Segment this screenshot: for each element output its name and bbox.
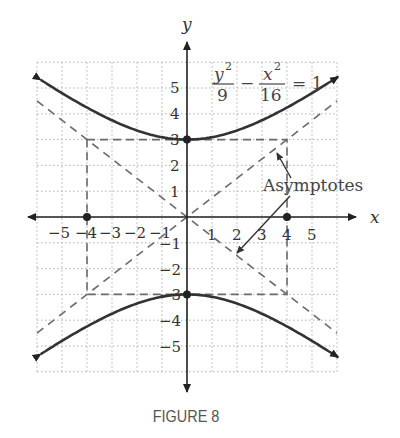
x-tick: 2 [232,226,242,244]
y-tick: −1 [159,235,181,253]
y-tick: −2 [159,261,181,279]
y-tick: 1 [170,183,180,201]
y-tick: 3 [170,131,180,149]
figure-caption: FIGURE 8 [28,407,344,427]
vertex-point-top [183,136,191,144]
x-tick-labels: −5 −4 −3 −2 −1 1 2 3 4 5 [48,224,317,244]
x-tick: −2 [124,224,146,242]
x-tick: −4 [75,224,97,242]
eq-equals-one: = 1 [292,73,322,93]
eq-term1-denominator: 9 [217,85,228,105]
y-axis-label: y [181,14,192,34]
y-tick: −5 [159,338,181,356]
x-tick: 5 [307,226,317,244]
y-tick: −3 [159,286,181,304]
x-axis-label: x [370,207,380,227]
point-4-0 [283,213,291,221]
x-tick: −3 [99,224,121,242]
eq-term1-exponent: 2 [225,60,232,73]
eq-minus: − [240,73,254,93]
eq-term2-denominator: 16 [260,85,282,105]
hyperbola-equation: y 2 9 − x 2 16 = 1 [212,60,322,105]
vertex-point-bottom [183,290,191,298]
x-tick: −5 [48,224,70,242]
y-tick: 2 [170,157,180,175]
hyperbola-graph: Asymptotes x y −5 −4 −3 −2 −1 1 2 3 4 5 … [0,0,400,438]
x-tick: 3 [257,226,267,244]
y-tick: 4 [170,105,180,123]
x-tick: 4 [282,226,292,244]
eq-term2-exponent: 2 [274,60,281,73]
y-tick: −4 [159,312,181,330]
eq-term2-numerator: x [263,64,273,84]
asymptotes-label: Asymptotes [262,175,363,195]
hyperbola-lower-branch [41,294,338,357]
x-tick: 1 [207,226,217,244]
eq-term1-numerator: y [213,64,224,84]
annotation-arrow-lower [237,196,290,253]
y-tick: 5 [170,79,180,97]
point-neg4-0 [83,213,91,221]
